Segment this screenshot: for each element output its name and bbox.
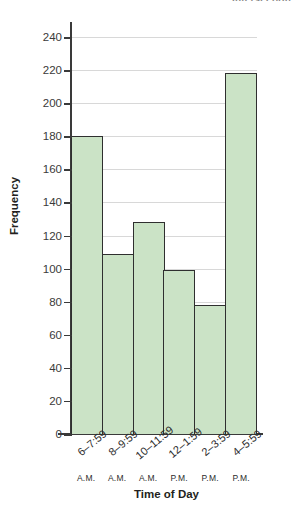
y-axis-tick-label: 180 — [22, 130, 62, 142]
x-axis-title: Time of Day — [0, 488, 305, 500]
y-axis-title: Frequency — [8, 156, 20, 256]
y-axis-tick — [64, 401, 72, 403]
y-axis-tick-label: 100 — [22, 263, 62, 275]
x-axis-tick-label-group: 8–9:59A.M. — [102, 437, 133, 487]
y-axis-tick-label: 0 — [22, 428, 62, 440]
x-axis-tick-labels: 6–7:59A.M.8–9:59A.M.10–11:59A.M.12–1:59P… — [71, 437, 257, 487]
y-axis-tick — [64, 269, 72, 271]
y-axis-tick-label: 220 — [22, 64, 62, 76]
y-axis-tick — [64, 169, 72, 171]
y-axis-tick — [64, 302, 72, 304]
y-axis-tick — [64, 70, 72, 72]
y-axis-tick — [64, 368, 72, 370]
x-axis-tick-label-group: 10–11:59A.M. — [133, 437, 164, 487]
y-axis-tick-label: 200 — [22, 97, 62, 109]
y-axis-tick-label: 160 — [22, 163, 62, 175]
x-axis-tick-label-meridiem: A.M. — [108, 473, 126, 483]
x-axis-tick-label-meridiem: P.M. — [171, 473, 188, 483]
y-axis-tick-label: 60 — [22, 329, 62, 341]
y-axis-tick — [64, 335, 72, 337]
histogram-chart: Intersection 020406080100120140160180200… — [0, 0, 305, 508]
y-axis-tick-label: 80 — [22, 296, 62, 308]
x-axis-tick-label-group: 4–5:59P.M. — [226, 437, 257, 487]
y-axis-tick-label: 20 — [22, 395, 62, 407]
y-axis-tick — [64, 37, 72, 39]
y-axis-tick — [64, 236, 72, 238]
y-axis-tick-label: 240 — [22, 31, 62, 43]
y-axis-tick-label: 40 — [22, 362, 62, 374]
x-axis-tick-label-meridiem: P.M. — [202, 473, 219, 483]
x-axis-tick-label-meridiem: P.M. — [233, 473, 250, 483]
y-axis-tick — [64, 103, 72, 105]
y-axis-tick — [64, 434, 72, 436]
x-axis-tick-label-group: 6–7:59A.M. — [71, 437, 102, 487]
x-axis-tick-label-meridiem: A.M. — [139, 473, 157, 483]
y-axis-tick — [64, 202, 72, 204]
x-axis-tick-label-group: 12–1:59P.M. — [164, 437, 195, 487]
y-axis-tick-label: 140 — [22, 196, 62, 208]
y-axis-tick-label: 120 — [22, 230, 62, 242]
x-axis-tick-label-group: 2–3:59P.M. — [195, 437, 226, 487]
y-axis-tick — [64, 136, 72, 138]
x-axis-tick-label-meridiem: A.M. — [77, 473, 95, 483]
